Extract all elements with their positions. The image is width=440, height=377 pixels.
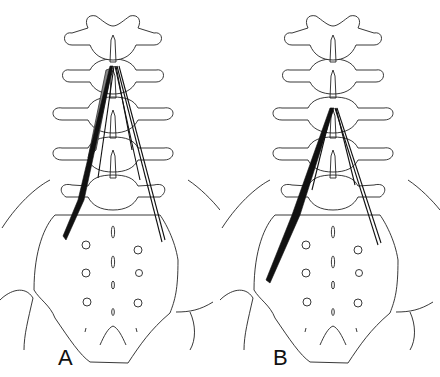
panel-b: B (220, 0, 440, 377)
anatomical-figure: A (0, 0, 440, 377)
lumbar-spine-illustration-a (0, 0, 220, 377)
panel-label-a: A (58, 345, 73, 371)
panel-label-b: B (273, 345, 288, 371)
lumbar-spine-illustration-b (220, 0, 440, 377)
panel-a: A (0, 0, 220, 377)
